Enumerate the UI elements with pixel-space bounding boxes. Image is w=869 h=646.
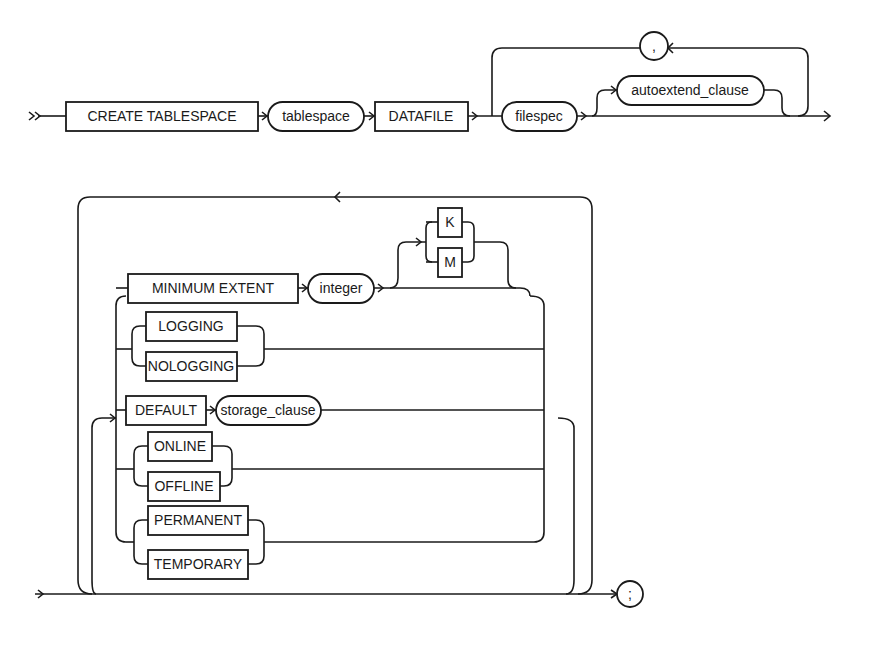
storage-clause-param: storage_clause [216,396,321,425]
autoextend-clause-param: autoextend_clause [617,76,764,105]
create-tablespace-label: CREATE TABLESPACE [87,108,236,124]
default-label: DEFAULT [135,402,197,418]
temporary-keyword: TEMPORARY [148,550,248,579]
default-keyword: DEFAULT [126,396,206,425]
choice-exit-path [558,418,574,594]
datafile-label: DATAFILE [389,108,454,124]
semicolon-terminator: ; [617,581,643,607]
unit-k-label: K [445,214,455,230]
filespec-param: filespec [502,102,577,131]
unit-optional-branch [390,242,426,288]
tablespace-param: tablespace [268,102,364,131]
minimum-extent-keyword: MINIMUM EXTENT [128,274,298,303]
create-tablespace-syntax-diagram: CREATE TABLESPACE tablespace DATAFILE , [0,0,869,646]
start-arrow-icon [29,112,66,120]
choice-entry-path [92,418,116,594]
storage-clause-label: storage_clause [221,402,316,418]
integer-param: integer [308,274,374,303]
permanent-label: PERMANENT [154,512,242,528]
logging-label: LOGGING [158,318,223,334]
online-keyword: ONLINE [148,432,212,461]
logging-keyword: LOGGING [146,312,237,341]
filespec-label: filespec [515,108,562,124]
permanent-keyword: PERMANENT [148,506,248,535]
unit-m-keyword: M [438,248,462,277]
minimum-extent-label: MINIMUM EXTENT [152,280,275,296]
online-label: ONLINE [154,438,206,454]
semicolon-label: ; [628,586,632,602]
datafile-keyword: DATAFILE [375,102,468,131]
comma-separator: , [640,32,668,60]
comma-label: , [652,38,656,54]
unit-k-keyword: K [438,208,462,237]
autoextend-optional-branch [592,90,617,116]
tablespace-label: tablespace [282,108,350,124]
integer-label: integer [320,280,363,296]
nologging-keyword: NOLOGGING [146,352,237,381]
offline-label: OFFLINE [154,478,213,494]
temporary-label: TEMPORARY [154,556,243,572]
nologging-label: NOLOGGING [148,358,234,374]
create-tablespace-keyword: CREATE TABLESPACE [66,102,258,131]
offline-keyword: OFFLINE [148,472,220,501]
autoextend-clause-label: autoextend_clause [631,82,749,98]
unit-m-label: M [444,254,456,270]
options-loop: MINIMUM EXTENT integer K M [35,192,643,607]
main-row: CREATE TABLESPACE tablespace DATAFILE , [29,32,830,131]
